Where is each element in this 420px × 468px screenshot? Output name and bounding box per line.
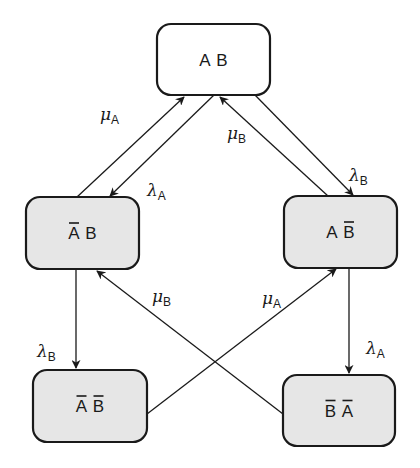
state-letter-a-bar: A [68, 224, 80, 243]
rate-label-lambda-b: λB [348, 165, 368, 188]
state-box [284, 196, 397, 268]
state-letter-b-bar: B [325, 402, 336, 421]
state-node-notA_notB: AB [33, 370, 147, 442]
state-letter-b: B [85, 224, 96, 243]
state-box [33, 370, 147, 442]
rate-label-mu-a: μA [262, 288, 281, 311]
state-letter-a-bar: A [76, 397, 88, 416]
state-box [26, 197, 139, 269]
state-node-A_notB: AB [284, 196, 397, 268]
transition-arrow-A_notB-to-AB [220, 97, 328, 196]
transition-arrow-AB-to-A_notB [255, 95, 353, 195]
rate-label-lambda-a: λA [146, 180, 166, 203]
state-diagram: ABABABABBA μAλAμBλBλBμBμAλA [0, 0, 420, 468]
state-letter-a-bar: A [342, 402, 354, 421]
rate-label-mu-b: μB [227, 123, 246, 146]
rate-label-mu-b: μB [152, 286, 171, 309]
state-node-AB: AB [157, 24, 270, 95]
transition-arrow-notA_B-to-AB [77, 97, 184, 197]
nodes-layer: ABABABABBA [26, 24, 397, 446]
state-letter-b-bar: B [343, 223, 354, 242]
rate-label-lambda-a: λA [365, 338, 385, 361]
state-box [283, 375, 395, 446]
state-letter-a: A [199, 51, 211, 70]
transition-arrow-AB-to-notA_B [110, 95, 214, 196]
state-letter-a: A [326, 223, 338, 242]
state-letter-b: B [216, 51, 227, 70]
rate-label-mu-a: μA [100, 104, 119, 127]
state-box [157, 24, 270, 95]
rate-label-lambda-b: λB [36, 341, 56, 364]
state-letter-b-bar: B [93, 397, 104, 416]
state-node-notA_B: AB [26, 197, 139, 269]
state-node-notB_notA: BA [283, 375, 395, 446]
